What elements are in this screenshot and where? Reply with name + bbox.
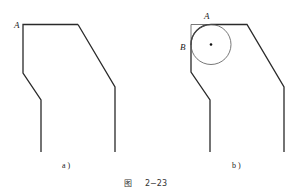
panel-a: A a ) bbox=[13, 20, 115, 170]
panel-a-label: a ) bbox=[62, 161, 71, 170]
panel-a-point-A-label: A bbox=[13, 20, 20, 30]
caption-number: 2−23 bbox=[145, 179, 167, 188]
panel-b-point-A-label: A bbox=[203, 11, 210, 21]
panel-a-left-contour bbox=[23, 25, 78, 153]
panel-b-right-contour bbox=[211, 25, 284, 153]
caption-prefix: 图 bbox=[124, 179, 132, 188]
panel-b-circle-center bbox=[210, 43, 213, 46]
figure-caption: 图 2−23 bbox=[124, 179, 167, 188]
panel-b-point-B-label: B bbox=[180, 42, 186, 52]
panel-b-left-contour bbox=[191, 45, 210, 152]
figure-2-23: A a ) A B b ) 图 2−23 bbox=[0, 0, 299, 190]
panel-a-right-contour bbox=[78, 25, 115, 153]
panel-b-label: b ) bbox=[232, 161, 241, 170]
panel-b: A B b ) bbox=[180, 11, 284, 170]
